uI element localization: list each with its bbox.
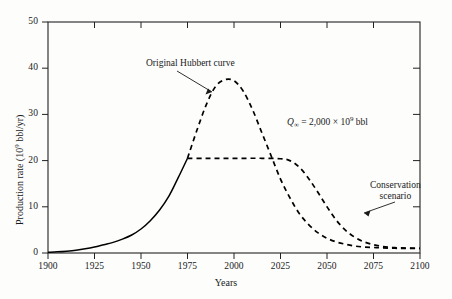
x-tick-label-2000: 2000 — [214, 261, 254, 271]
conservation-scenario-label: Conservation scenario — [370, 180, 421, 202]
x-tick-label-2100: 2100 — [400, 261, 440, 271]
hubbert-arrowhead — [206, 89, 213, 95]
x-axis-ticks-top — [95, 22, 374, 28]
y-axis-title-suffix: bbl/yr) — [14, 115, 25, 145]
x-tick-label-2075: 2075 — [354, 261, 394, 271]
q-infinity-annotation: Q∞ = 2,000 × 109 bbl — [287, 114, 368, 131]
conservation-label-line-2: scenario — [370, 191, 421, 202]
x-tick-label-2025: 2025 — [261, 261, 301, 271]
series-conservation-scenario — [188, 158, 421, 248]
hubbert-leader-line — [177, 71, 212, 92]
x-tick-label-1900: 1900 — [28, 261, 68, 271]
y-axis-title-exponent: 9 — [13, 144, 21, 148]
x-tick-label-1975: 1975 — [168, 261, 208, 271]
q-unit: bbl — [353, 117, 368, 127]
data-series-group — [48, 79, 420, 252]
y-tick-label-0: 0 — [16, 247, 38, 257]
x-tick-label-1925: 1925 — [75, 261, 115, 271]
y-tick-label-50: 50 — [16, 16, 38, 26]
y-axis-title: Production rate (109 bbl/yr) — [13, 115, 25, 225]
hubbert-curve-figure: 0 10 20 30 40 50 1900 1925 1950 1975 200… — [0, 0, 452, 299]
y-tick-label-40: 40 — [16, 62, 38, 72]
x-axis-ticks-bottom — [48, 253, 420, 259]
plot-frame — [48, 22, 420, 253]
x-tick-label-2050: 2050 — [307, 261, 347, 271]
chart-plot-area — [0, 0, 452, 299]
series-historical-production — [48, 158, 188, 252]
q-equals-value: = 2,000 × 10 — [299, 117, 350, 127]
series-original-hubbert-curve — [188, 79, 421, 248]
x-axis-title: Years — [0, 277, 452, 288]
annotation-leader-lines — [177, 71, 395, 217]
y-axis-title-prefix: Production rate (10 — [14, 148, 25, 225]
y-axis-ticks-left — [42, 22, 48, 253]
x-tick-label-1950: 1950 — [121, 261, 161, 271]
q-symbol: Q — [287, 117, 294, 127]
conservation-label-line-1: Conservation — [370, 180, 421, 191]
original-hubbert-curve-label: Original Hubbert curve — [146, 58, 235, 69]
